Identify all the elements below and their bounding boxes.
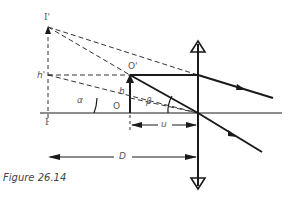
label-object-height: h	[119, 87, 125, 96]
ray-arrow-icon	[236, 84, 246, 90]
label-object-distance: u	[161, 120, 167, 129]
label-image-base: I	[45, 118, 49, 127]
label-object-top: O'	[128, 62, 138, 71]
label-object-base: O	[113, 102, 120, 111]
label-angle-beta: β	[146, 97, 152, 106]
figure-caption: Figure 26.14	[3, 172, 66, 183]
label-image-top: I'	[44, 13, 50, 22]
alpha-arc	[94, 98, 97, 113]
virtual-image	[45, 26, 52, 122]
label-viewing-distance: D	[119, 152, 126, 161]
label-image-height: h'	[37, 71, 45, 80]
label-angle-alpha: α	[77, 96, 83, 105]
ray-diagram	[0, 0, 289, 200]
object	[126, 74, 134, 113]
